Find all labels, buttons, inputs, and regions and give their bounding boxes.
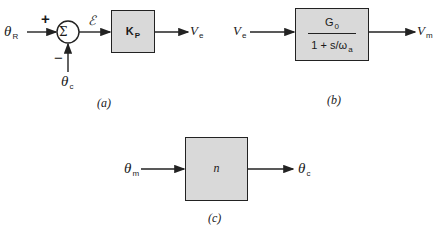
output-theta-c: θc [298,161,310,178]
input-theta-m: θm [124,161,139,178]
minus-sign: − [54,50,63,65]
input-ve: Ve [233,24,246,40]
gear-ratio-block: n [185,137,248,201]
error-signal: ℰ [88,14,96,27]
gain-block-kp: KP [111,10,155,53]
plus-sign: + [41,11,50,26]
denominator: 1 + s/ωa [296,39,368,54]
feedback-theta-c: θc [61,74,73,91]
summing-junction: Σ [59,26,67,38]
input-theta-r: θR [4,24,18,41]
gear-ratio-label: n [186,161,247,176]
transfer-function-block: G0 1 + s/ωa [295,8,369,61]
gain-label: KP [112,25,154,40]
fraction-bar [308,33,356,34]
caption-a: (a) [97,97,111,109]
output-vm: Vm [417,24,433,40]
caption-b: (b) [327,94,341,106]
numerator: G0 [296,16,368,31]
output-ve: Ve [190,24,203,40]
caption-c: (c) [208,212,221,224]
